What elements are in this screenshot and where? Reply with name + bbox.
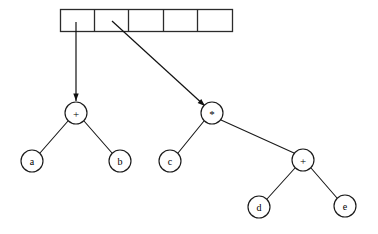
pointer-arrows	[73, 21, 205, 106]
array-cell-4[interactable]	[197, 9, 232, 31]
array-cell-1[interactable]	[94, 9, 128, 31]
node-plus-2-label: +	[300, 155, 306, 167]
node-times-label: *	[209, 108, 215, 120]
node-plus-2[interactable]: +	[292, 149, 314, 171]
node-a-label: a	[30, 156, 35, 167]
node-plus-1[interactable]: +	[65, 102, 87, 124]
array-cell-2[interactable]	[128, 9, 163, 31]
diagram-canvas: +ab*c+de	[0, 0, 378, 234]
edge-plus1-b	[84, 121, 112, 153]
node-c-label: c	[168, 156, 173, 167]
node-b-label: b	[118, 156, 123, 167]
array-cell-0[interactable]	[60, 9, 94, 31]
node-plus-1-label: +	[73, 108, 79, 120]
tree-nodes: +ab*c+de	[21, 102, 356, 218]
expression-tree-diagram: +ab*c+de	[0, 0, 378, 234]
array-cell-3[interactable]	[163, 9, 197, 31]
node-e[interactable]: e	[334, 195, 356, 217]
pointer-array	[60, 9, 233, 32]
edge-times-p2	[221, 120, 294, 153]
node-times[interactable]: *	[201, 102, 223, 124]
node-e-label: e	[343, 201, 348, 212]
node-d[interactable]: d	[248, 196, 270, 218]
pointer-0-arrowhead	[73, 94, 78, 102]
node-a[interactable]: a	[21, 150, 43, 172]
edge-times-c	[178, 121, 204, 153]
edge-plus1-a	[40, 121, 68, 153]
node-b[interactable]: b	[109, 150, 131, 172]
edge-plus2-d	[267, 168, 295, 199]
node-c[interactable]: c	[159, 150, 181, 172]
node-d-label: d	[257, 202, 262, 213]
edge-plus2-e	[311, 168, 337, 198]
pointer-1-line	[112, 21, 205, 106]
